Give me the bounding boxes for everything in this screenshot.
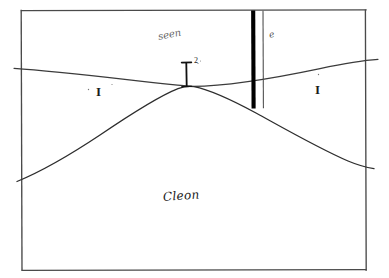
frame-left-edge <box>21 10 22 270</box>
fold-crest-marker <box>182 62 192 86</box>
cross-section-drawing <box>0 0 389 278</box>
annotation-bottom-cursive: Cleon <box>163 187 200 204</box>
borehole-well-trace <box>252 11 253 109</box>
frame-right-edge <box>365 10 366 270</box>
frame-top-edge <box>22 10 367 11</box>
frame-bottom-edge <box>22 270 366 271</box>
superscript-digit: 2 <box>194 56 198 65</box>
anticline-fold-surface <box>17 86 374 181</box>
unit-label-center-superscript: 2 <box>194 56 198 72</box>
unit-label-left: I <box>96 84 102 100</box>
unit-label-right: I <box>315 82 321 98</box>
frame-border <box>21 10 366 271</box>
geologic-cross-section-figure: I I 2 seen e Cleon <box>0 0 389 278</box>
